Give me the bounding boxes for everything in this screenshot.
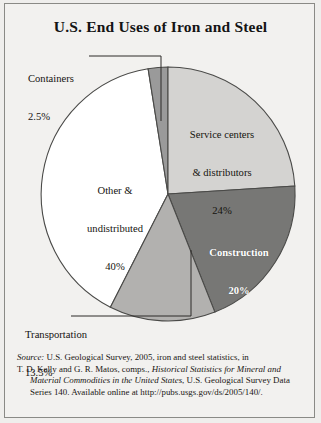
source-url[interactable]: http://pubs.usgs.gov/ds/2005/140/. bbox=[140, 387, 263, 397]
label-other-undistributed: Other & undistributed 40% bbox=[63, 160, 167, 299]
label-other-line1: Other & bbox=[63, 185, 167, 198]
label-other-value: 40% bbox=[63, 261, 167, 274]
source-note: Source: U.S. Geological Survey, 2005, ir… bbox=[17, 352, 305, 398]
source-line1: U.S. Geological Survey, 2005, iron and s… bbox=[44, 352, 249, 362]
source-line3-post: , U.S. bbox=[182, 375, 202, 385]
chart-frame: U.S. End Uses of Iron and Steel bbox=[4, 3, 315, 418]
label-construction: Construction 20% bbox=[191, 222, 287, 323]
label-containers: Containers 2.5% bbox=[28, 48, 74, 149]
label-other-line2: undistributed bbox=[63, 223, 167, 236]
label-service-value: 24% bbox=[170, 205, 274, 218]
source-line2-pre: T. D. Kelly and G. R. Matos, comps., bbox=[17, 364, 152, 374]
label-service-line2: & distributors bbox=[170, 167, 274, 180]
label-transportation-name: Transportation bbox=[25, 329, 87, 342]
source-continuation: T. D. Kelly and G. R. Matos, comps., His… bbox=[17, 364, 305, 399]
label-containers-value: 2.5% bbox=[28, 111, 74, 124]
source-label: Source: bbox=[17, 352, 44, 362]
label-service-line1: Service centers bbox=[170, 129, 274, 142]
label-construction-value: 20% bbox=[191, 285, 287, 298]
source-line2-title: Historical Statistics for bbox=[152, 364, 235, 374]
label-construction-name: Construction bbox=[191, 247, 287, 260]
label-containers-name: Containers bbox=[28, 73, 74, 86]
